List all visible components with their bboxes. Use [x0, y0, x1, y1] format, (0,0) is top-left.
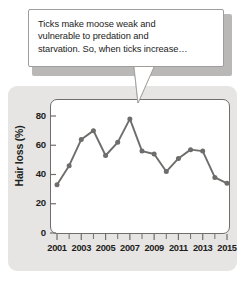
callout-tail-icon	[132, 67, 172, 105]
data-point-2011	[176, 156, 181, 161]
data-point-2014	[212, 175, 217, 180]
data-point-2002	[67, 163, 72, 168]
callout-bubble: Ticks make moose weak and vulnerable to …	[28, 9, 232, 75]
figure-root: Hair loss (%) 020406080 2001200320052007…	[0, 0, 248, 285]
callout-box: Ticks make moose weak and vulnerable to …	[28, 9, 224, 67]
data-point-2012	[188, 147, 193, 152]
data-point-2001	[55, 182, 60, 187]
data-point-2007	[127, 116, 132, 121]
data-point-2015	[225, 181, 230, 186]
data-point-2013	[200, 149, 205, 154]
data-point-2005	[103, 153, 108, 158]
callout-line-1: Ticks make moose weak and	[38, 18, 214, 30]
axis-tick-marks	[50, 116, 227, 240]
data-point-2010	[164, 169, 169, 174]
callout-line-2: vulnerable to predation and	[38, 30, 214, 42]
data-point-2006	[115, 140, 120, 145]
data-point-markers	[55, 116, 230, 187]
callout-line-3: starvation. So, when ticks increase…	[38, 43, 214, 55]
data-point-2004	[91, 128, 96, 133]
data-point-2009	[152, 152, 157, 157]
data-point-2008	[140, 149, 145, 154]
data-point-2003	[79, 137, 84, 142]
